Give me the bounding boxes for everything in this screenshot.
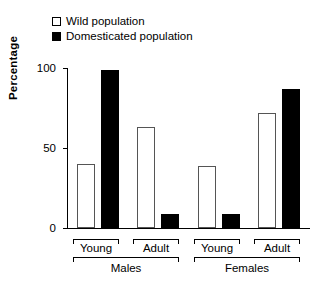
legend-item-wild: Wild population bbox=[52, 14, 252, 29]
legend-label-domesticated: Domesticated population bbox=[66, 29, 193, 44]
x-sub-label-males-adult: Adult bbox=[133, 242, 179, 254]
chart-legend: Wild population Domesticated population bbox=[52, 14, 252, 44]
x-sub-label-females-adult: Adult bbox=[254, 242, 300, 254]
y-tick-label-50: 50 bbox=[43, 142, 56, 154]
bar-females-adult-domesticated bbox=[282, 89, 300, 228]
x-main-label-males: Males bbox=[73, 262, 179, 274]
bar-males-adult-wild bbox=[137, 127, 155, 228]
filled-square-swatch-icon bbox=[52, 32, 61, 41]
legend-label-wild: Wild population bbox=[66, 14, 145, 29]
bar-females-adult-wild bbox=[258, 113, 276, 228]
bar-females-young-domesticated bbox=[222, 214, 240, 228]
y-tick-label-0: 0 bbox=[50, 222, 56, 234]
y-axis-label: Percentage bbox=[7, 36, 19, 100]
x-sub-label-males-young: Young bbox=[73, 242, 119, 254]
bar-males-young-wild bbox=[77, 164, 95, 228]
bar-females-young-wild bbox=[198, 166, 216, 228]
x-sub-label-females-young: Young bbox=[194, 242, 240, 254]
legend-item-domesticated: Domesticated population bbox=[52, 29, 252, 44]
y-tick-100: 100 bbox=[63, 68, 68, 69]
bar-chart-figure: Wild population Domesticated population … bbox=[0, 0, 324, 282]
bar-males-young-domesticated bbox=[101, 70, 119, 228]
plot-area: 0 50 100 bbox=[67, 62, 310, 228]
bar-males-adult-domesticated bbox=[161, 214, 179, 228]
y-tick-label-100: 100 bbox=[37, 62, 56, 74]
y-tick-50: 50 bbox=[63, 148, 68, 149]
open-square-swatch-icon bbox=[52, 17, 61, 26]
x-main-label-females: Females bbox=[194, 262, 300, 274]
x-axis-labels: Young Adult Young Adult Males Females bbox=[67, 229, 310, 282]
